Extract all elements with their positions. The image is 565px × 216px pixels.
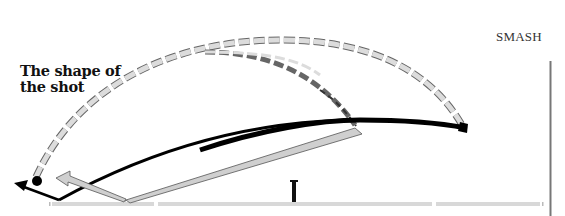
shuttle-dot	[32, 176, 42, 186]
net-post	[292, 181, 296, 202]
outer-dashed-arc	[36, 40, 462, 177]
court-baseline	[49, 202, 544, 206]
inner-dashed-arc	[205, 52, 355, 125]
black-arrow-shaft	[24, 187, 59, 200]
shot-shape-diagram: The shape of the shot SMASH	[0, 0, 565, 216]
black-arrow-head	[14, 180, 28, 191]
trajectory-drawing	[0, 0, 565, 216]
